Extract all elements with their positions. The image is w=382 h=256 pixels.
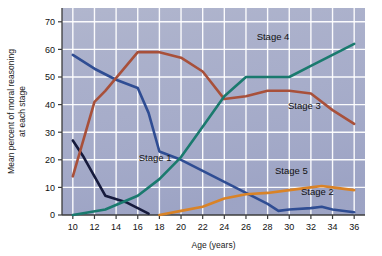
x-tick-label: 18 [154,222,164,232]
x-tick-label: 16 [133,222,143,232]
x-axis-ticks: 1012141618202224262830323436 [68,215,359,232]
x-tick-label: 20 [176,222,186,232]
y-axis-ticks: 010203040506070 [45,17,62,220]
y-tick-label: 10 [45,183,55,193]
x-axis-label: Age (years) [192,240,236,250]
y-axis-label-line-2: at each stage [17,86,27,137]
y-axis-label-line-1: Mean percent of moral reasoning [6,49,16,174]
x-tick-label: 24 [219,222,229,232]
y-tick-label: 70 [45,17,55,27]
x-tick-label: 32 [306,222,316,232]
x-tick-label: 36 [349,222,359,232]
y-tick-label: 30 [45,128,55,138]
x-tick-label: 30 [284,222,294,232]
moral-reasoning-line-chart: 0102030405060701012141618202224262830323… [0,0,382,256]
y-tick-label: 0 [50,210,55,220]
series-label-stage-2: Stage 2 [301,186,334,197]
y-tick-label: 60 [45,45,55,55]
series-label-stage-4: Stage 4 [257,31,290,42]
chart-canvas: 0102030405060701012141618202224262830323… [0,0,382,256]
y-tick-label: 40 [45,100,55,110]
x-tick-label: 12 [89,222,99,232]
x-tick-label: 26 [241,222,251,232]
x-tick-label: 14 [111,222,121,232]
series-label-stage-1: Stage 1 [139,152,172,163]
x-tick-label: 22 [198,222,208,232]
x-tick-label: 28 [263,222,273,232]
series-label-stage-3: Stage 3 [288,100,321,111]
x-tick-label: 10 [68,222,78,232]
x-tick-label: 34 [328,222,338,232]
y-tick-label: 20 [45,155,55,165]
y-axis-label: Mean percent of moral reasoningat each s… [6,49,27,174]
series-label-stage-5: Stage 5 [275,165,308,176]
y-tick-label: 50 [45,72,55,82]
